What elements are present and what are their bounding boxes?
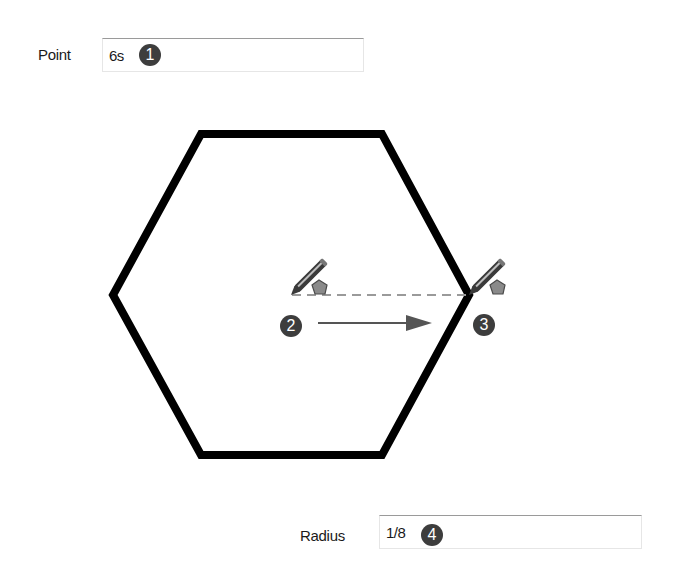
callout-2-badge: 2: [280, 315, 302, 337]
direction-arrow: [318, 315, 432, 331]
pencil-cursor-icon-start: [288, 258, 328, 298]
radius-input[interactable]: 1/8: [379, 515, 642, 549]
pencil-cursor-icon-end: [466, 258, 506, 298]
radius-label: Radius: [300, 527, 345, 544]
hexagon-diagram: [0, 0, 677, 576]
callout-4-badge: 4: [421, 524, 443, 546]
callout-3-badge: 3: [473, 314, 495, 336]
polygon-tool-icon: [490, 280, 505, 294]
polygon-tool-icon: [312, 280, 327, 294]
radius-input-value: 1/8: [386, 524, 405, 541]
